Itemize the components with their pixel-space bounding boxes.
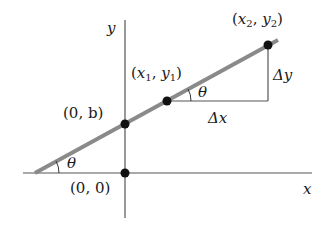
theta-arc-triangle	[188, 89, 191, 101]
origin-label: (0, 0)	[70, 179, 110, 197]
point-2	[264, 41, 273, 50]
y-intercept-point	[121, 120, 130, 129]
x-axis-label: x	[303, 180, 312, 198]
delta-x-label: Δx	[207, 109, 228, 127]
theta-label-triangle: θ	[198, 83, 207, 101]
point-1	[163, 97, 172, 106]
origin-point	[121, 169, 130, 178]
y-axis-label: y	[106, 19, 116, 37]
delta-y-label: Δy	[272, 66, 293, 84]
point-1-label: (x1, y1)	[131, 64, 182, 83]
theta-label-intercept: θ	[67, 154, 76, 172]
y-intercept-label: (0, b)	[63, 104, 103, 122]
slope-diagram: y x (0, 0) (0, b) (x1, y1) (x2, y2) Δx Δ…	[0, 0, 328, 232]
point-2-label: (x2, y2)	[232, 10, 283, 29]
